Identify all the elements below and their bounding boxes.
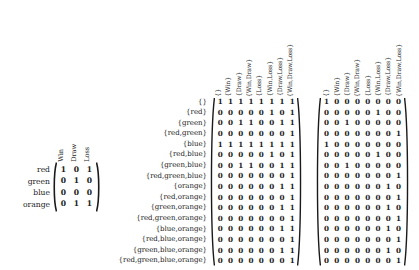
- matrix-cell: 0: [365, 130, 370, 137]
- matrix-cell: 0: [345, 141, 350, 148]
- row-label: {green,blue}: [107, 160, 209, 171]
- matrix-cell: 0: [355, 236, 360, 243]
- matrix-cell: 1: [279, 141, 284, 148]
- column-header-cell: {Loss}: [254, 25, 264, 97]
- matrix-cell: 0: [228, 225, 233, 232]
- column-header-label: {}: [215, 89, 221, 97]
- matrix-cell: 0: [345, 215, 350, 222]
- matrix-cell: 0: [74, 166, 79, 174]
- matrix-cell: 0: [396, 141, 401, 148]
- matrix-cell: 0: [324, 247, 329, 254]
- matrix-cell: 1: [238, 141, 243, 148]
- matrix-cell: 0: [238, 130, 243, 137]
- matrix-left-column-headers: Win Draw Loss: [14, 144, 101, 162]
- matrix-cell: 1: [290, 236, 295, 243]
- matrix-cell: 1: [290, 172, 295, 179]
- matrix-cell: 1: [290, 119, 295, 126]
- matrix-cell: 0: [238, 247, 243, 254]
- column-header-cell: {Draw,Loss}: [383, 25, 393, 97]
- matrix-cell: 1: [376, 151, 381, 158]
- matrix-cell: 0: [334, 130, 339, 137]
- matrix-cell: 1: [290, 109, 295, 116]
- matrix-cell: 0: [218, 109, 223, 116]
- matrix-cell: 1: [238, 98, 243, 105]
- column-header-cell: {Loss}: [363, 25, 373, 97]
- matrix-cell: 0: [249, 215, 254, 222]
- matrix-cell: 0: [269, 204, 274, 211]
- matrix-left-row-labels: red green blue orange: [14, 164, 52, 210]
- column-header-label: Win: [58, 149, 65, 162]
- matrix-cell: 0: [396, 162, 401, 169]
- matrix-cell: 1: [249, 162, 254, 169]
- matrix-middle-body: {}{red}{green}{red,green}{blue}{red,blue…: [107, 97, 303, 267]
- column-header-label: {Win,Draw,Loss}: [396, 44, 402, 97]
- matrix-cell: 0: [386, 215, 391, 222]
- matrix-cell: 0: [61, 200, 66, 208]
- matrix-cell: 0: [259, 215, 264, 222]
- matrix-cell: 1: [279, 247, 284, 254]
- matrix-cell: 0: [61, 177, 66, 185]
- matrix-cell: 1: [290, 183, 295, 190]
- matrix-cell: 0: [345, 247, 350, 254]
- matrix-cell: 0: [228, 236, 233, 243]
- matrix-cell: 0: [249, 225, 254, 232]
- matrix-cell: 0: [279, 130, 284, 137]
- matrix-cell: 0: [386, 194, 391, 201]
- matrix-cell: 0: [345, 183, 350, 190]
- row-label: {red,green,blue,orange}: [107, 255, 209, 266]
- matrix-cell: 1: [386, 204, 391, 211]
- matrix-cell: 0: [324, 162, 329, 169]
- matrix-cell: 0: [324, 119, 329, 126]
- matrix-cell: 1: [61, 166, 66, 174]
- matrix-left-body: red green blue orange 101010000011: [14, 162, 101, 212]
- matrix-cell: 0: [376, 204, 381, 211]
- matrix-cell: 1: [376, 109, 381, 116]
- matrix-middle-column-headers: {} {Win} {Draw} {Win,Draw} {Loss} {Win,L…: [107, 25, 303, 97]
- matrix-cell: 0: [238, 183, 243, 190]
- row-label: {blue,orange}: [107, 224, 209, 235]
- column-header-cell: {Draw,Loss}: [275, 25, 285, 97]
- matrix-cell: 0: [396, 183, 401, 190]
- matrix-cell: 0: [396, 247, 401, 254]
- row-label: {red,green,blue}: [107, 171, 209, 182]
- matrix-cell: 0: [238, 257, 243, 264]
- matrix-cell: 1: [218, 141, 223, 148]
- matrix-cell: 0: [365, 109, 370, 116]
- matrix-cell: 0: [228, 204, 233, 211]
- matrix-cell: 0: [334, 162, 339, 169]
- matrix-right-body: 1000000000000100001000000000000110000000…: [315, 97, 409, 267]
- matrix-cell: 0: [218, 204, 223, 211]
- matrix-middle-cells: 1111111100000101001100110000000111111111…: [215, 97, 297, 267]
- column-header-cell: {Win,Draw}: [244, 25, 254, 97]
- matrix-cell: 0: [376, 257, 381, 264]
- matrix-cell: 0: [334, 183, 339, 190]
- matrix-cell: 0: [345, 204, 350, 211]
- matrix-cell: 1: [249, 141, 254, 148]
- row-label: {red,blue}: [107, 149, 209, 160]
- matrix-cell: 0: [396, 151, 401, 158]
- matrix-cell: 1: [290, 225, 295, 232]
- matrix-middle-close-paren: [297, 97, 303, 267]
- matrix-cell: 0: [376, 98, 381, 105]
- matrix-cell: 1: [290, 194, 295, 201]
- matrix-cell: 0: [365, 141, 370, 148]
- matrix-cell: 0: [324, 130, 329, 137]
- matrix-cell: 0: [87, 189, 92, 197]
- matrix-cell: 0: [249, 130, 254, 137]
- matrix-cell: 0: [355, 98, 360, 105]
- matrix-cell: 0: [334, 141, 339, 148]
- column-header-label: {Draw}: [236, 72, 242, 96]
- column-header-label: {Win,Loss}: [267, 61, 273, 96]
- matrix-cell: 1: [279, 162, 284, 169]
- matrix-cell: 0: [386, 257, 391, 264]
- matrix-cell: 0: [365, 194, 370, 201]
- matrix-right-cells: 1000000000000100001000000000000110000000…: [321, 97, 403, 267]
- matrix-cell: 0: [386, 172, 391, 179]
- matrix-cell: 0: [355, 119, 360, 126]
- matrix-cell: 0: [334, 172, 339, 179]
- matrix-cell: 0: [228, 130, 233, 137]
- column-header-cell: {Win,Loss}: [264, 25, 274, 97]
- matrix-cell: 0: [279, 257, 284, 264]
- matrix-cell: 1: [290, 204, 295, 211]
- matrix-cell: 0: [376, 215, 381, 222]
